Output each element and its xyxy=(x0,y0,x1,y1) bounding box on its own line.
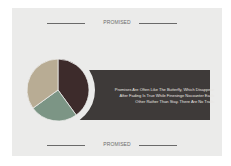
footer-rule-left xyxy=(47,145,85,146)
footer-divider: PROMISED xyxy=(12,139,222,151)
pie-figure xyxy=(12,8,222,156)
footer-label: PROMISED xyxy=(96,141,138,147)
quote-text: Promises Are Often Like The Butterfly, W… xyxy=(114,87,214,105)
pie-chart xyxy=(27,59,89,121)
slide: PROMISED Promises Are Often Like The But… xyxy=(12,8,222,156)
footer-rule-right xyxy=(139,145,177,146)
